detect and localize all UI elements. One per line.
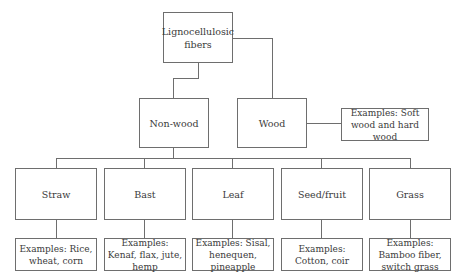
connector-bus-straw	[56, 158, 57, 168]
node-leaf: Leaf	[192, 168, 274, 220]
node-straw-examples: Examples: Rice, wheat, corn	[15, 238, 97, 271]
node-seed-fruit-examples: Examples: Cotton, coir	[281, 238, 363, 271]
connector-seed-examples	[321, 219, 322, 238]
examples-text: Examples: Bamboo fiber, switch grass	[372, 237, 448, 273]
examples-text: Examples: Rice, wheat, corn	[18, 243, 94, 267]
node-label: Grass	[396, 188, 424, 201]
node-label: Leaf	[222, 188, 243, 201]
node-bast-examples: Examples: Kenaf, flax, jute, hemp	[104, 238, 186, 271]
node-label: Non-wood	[149, 117, 198, 130]
examples-text: Examples: Kenaf, flax, jute, hemp	[107, 237, 183, 273]
connector-bus-bast	[144, 158, 145, 168]
node-wood: Wood	[237, 98, 307, 148]
connector-bast-examples	[144, 219, 145, 238]
node-label: Lignocellulosic fibers	[162, 25, 234, 51]
connector-leaf-examples	[232, 219, 233, 238]
connector-bus	[56, 158, 411, 159]
connector-nonwood-down	[173, 147, 174, 158]
node-grass: Grass	[369, 168, 451, 220]
connector-straw-examples	[56, 219, 57, 238]
node-label: Seed/fruit	[298, 188, 346, 201]
examples-text: Examples: Cotton, coir	[284, 243, 360, 267]
connector-to-wood	[272, 38, 273, 98]
node-straw: Straw	[15, 168, 97, 220]
node-label: Straw	[42, 188, 71, 201]
node-leaf-examples: Examples: Sisal, henequen, pineapple	[192, 238, 274, 271]
connector-wood-examples	[306, 123, 341, 124]
examples-text: Examples: Sisal, henequen, pineapple	[195, 237, 271, 273]
node-seed-fruit: Seed/fruit	[281, 168, 363, 220]
node-grass-examples: Examples: Bamboo fiber, switch grass	[369, 238, 451, 271]
examples-text: Examples: Soft wood and hard wood	[344, 107, 426, 143]
connector-bus-seed	[321, 158, 322, 168]
connector-root-right	[232, 38, 273, 39]
connector-bus-grass	[410, 158, 411, 168]
connector-root-left	[173, 78, 199, 79]
node-lignocellulosic-fibers: Lignocellulosic fibers	[163, 12, 233, 63]
node-label: Wood	[259, 117, 286, 130]
connector-bus-leaf	[232, 158, 233, 168]
connector-to-nonwood	[173, 78, 174, 98]
connector-grass-examples	[410, 219, 411, 238]
connector-root-down	[198, 62, 199, 78]
node-label: Bast	[134, 188, 155, 201]
node-bast: Bast	[104, 168, 186, 220]
node-wood-examples: Examples: Soft wood and hard wood	[341, 108, 429, 141]
node-non-wood: Non-wood	[139, 98, 209, 148]
